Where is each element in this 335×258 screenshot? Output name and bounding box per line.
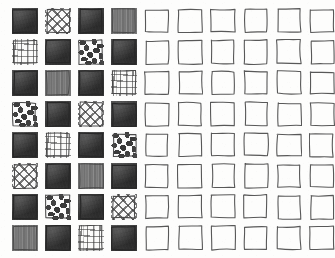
swatch-fill-solid <box>12 8 38 34</box>
swatch-cell-empty-outline[interactable] <box>210 225 236 251</box>
swatch-cell-empty-outline[interactable] <box>210 39 236 65</box>
swatch-cell-empty-outline[interactable] <box>144 101 170 127</box>
swatch-cell-plaid-grid-hatch[interactable] <box>45 132 71 158</box>
swatch-cell-dash-brick-strokes[interactable] <box>12 225 38 251</box>
swatch-cell-empty-outline[interactable] <box>276 163 302 189</box>
swatch-cell-empty-outline[interactable] <box>309 101 335 127</box>
swatch-cell-empty-outline[interactable] <box>276 39 302 65</box>
swatch-cell-dash-brick-strokes[interactable] <box>78 163 104 189</box>
swatch-cell-empty-outline[interactable] <box>276 8 302 34</box>
swatch-fill-dashes <box>78 163 104 189</box>
swatch-fill-dashes <box>45 70 71 96</box>
swatch-cell-solid-dark-fill[interactable] <box>111 39 137 65</box>
swatch-fill-solid <box>12 70 38 96</box>
swatch-fill-empty <box>276 39 302 65</box>
swatch-cell-plaid-grid-hatch[interactable] <box>111 70 137 96</box>
swatch-cell-maze-labyrinth[interactable] <box>45 8 71 34</box>
swatch-fill-empty <box>177 194 203 220</box>
swatch-cell-empty-outline[interactable] <box>144 39 170 65</box>
swatch-cell-empty-outline[interactable] <box>309 194 335 220</box>
swatch-cell-empty-outline[interactable] <box>276 101 302 127</box>
swatch-cell-empty-outline[interactable] <box>177 101 203 127</box>
swatch-cell-empty-outline[interactable] <box>177 194 203 220</box>
swatch-cell-dash-brick-strokes[interactable] <box>45 70 71 96</box>
swatch-cell-maze-labyrinth[interactable] <box>111 194 137 220</box>
swatch-fill-empty <box>210 163 236 189</box>
swatch-cell-solid-dark-fill[interactable] <box>78 194 104 220</box>
swatch-cell-empty-outline[interactable] <box>309 132 335 158</box>
swatch-cell-empty-outline[interactable] <box>210 8 236 34</box>
swatch-cell-irregular-blobs[interactable] <box>111 132 137 158</box>
swatch-cell-empty-outline[interactable] <box>243 8 269 34</box>
swatch-fill-empty <box>210 225 236 251</box>
swatch-cell-solid-dark-fill[interactable] <box>111 101 137 127</box>
swatch-cell-empty-outline[interactable] <box>243 101 269 127</box>
swatch-cell-solid-dark-fill[interactable] <box>45 163 71 189</box>
swatch-cell-solid-dark-fill[interactable] <box>78 70 104 96</box>
swatch-cell-empty-outline[interactable] <box>210 132 236 158</box>
swatch-cell-empty-outline[interactable] <box>309 39 335 65</box>
swatch-cell-empty-outline[interactable] <box>243 39 269 65</box>
swatch-cell-empty-outline[interactable] <box>276 225 302 251</box>
swatch-cell-irregular-blobs[interactable] <box>12 101 38 127</box>
swatch-cell-dash-brick-strokes[interactable] <box>111 8 137 34</box>
swatch-cell-empty-outline[interactable] <box>177 163 203 189</box>
swatch-cell-irregular-blobs[interactable] <box>45 194 71 220</box>
swatch-fill-empty <box>210 194 236 220</box>
swatch-cell-solid-dark-fill[interactable] <box>12 8 38 34</box>
swatch-cell-empty-outline[interactable] <box>309 225 335 251</box>
swatch-fill-empty <box>243 163 269 189</box>
swatch-cell-empty-outline[interactable] <box>177 70 203 96</box>
swatch-cell-empty-outline[interactable] <box>177 8 203 34</box>
swatch-cell-solid-dark-fill[interactable] <box>111 163 137 189</box>
swatch-cell-empty-outline[interactable] <box>243 132 269 158</box>
swatch-cell-plaid-grid-hatch[interactable] <box>12 39 38 65</box>
swatch-cell-solid-dark-fill[interactable] <box>111 225 137 251</box>
swatch-cell-solid-dark-fill[interactable] <box>78 8 104 34</box>
swatch-cell-empty-outline[interactable] <box>144 70 170 96</box>
swatch-cell-empty-outline[interactable] <box>210 101 236 127</box>
swatch-cell-solid-dark-fill[interactable] <box>45 39 71 65</box>
swatch-cell-empty-outline[interactable] <box>144 225 170 251</box>
swatch-fill-empty <box>243 39 269 65</box>
swatch-cell-empty-outline[interactable] <box>177 132 203 158</box>
swatch-cell-empty-outline[interactable] <box>243 194 269 220</box>
swatch-fill-plaid <box>111 70 137 96</box>
swatch-cell-irregular-blobs[interactable] <box>78 39 104 65</box>
swatch-cell-empty-outline[interactable] <box>243 163 269 189</box>
swatch-cell-empty-outline[interactable] <box>309 70 335 96</box>
swatch-fill-maze <box>111 194 137 220</box>
swatch-cell-empty-outline[interactable] <box>309 163 335 189</box>
swatch-cell-maze-labyrinth[interactable] <box>12 163 38 189</box>
swatch-cell-empty-outline[interactable] <box>309 8 335 34</box>
swatch-cell-empty-outline[interactable] <box>210 163 236 189</box>
swatch-fill-solid <box>12 194 38 220</box>
swatch-cell-empty-outline[interactable] <box>144 194 170 220</box>
swatch-cell-empty-outline[interactable] <box>177 39 203 65</box>
swatch-cell-empty-outline[interactable] <box>276 132 302 158</box>
swatch-cell-solid-dark-fill[interactable] <box>78 132 104 158</box>
swatch-cell-empty-outline[interactable] <box>210 70 236 96</box>
swatch-fill-empty <box>309 225 335 251</box>
swatch-cell-solid-dark-fill[interactable] <box>45 101 71 127</box>
swatch-fill-blobs <box>12 101 38 127</box>
swatch-cell-solid-dark-fill[interactable] <box>12 132 38 158</box>
swatch-fill-empty <box>309 39 335 65</box>
swatch-cell-empty-outline[interactable] <box>144 132 170 158</box>
swatch-fill-empty <box>309 132 335 158</box>
swatch-fill-solid <box>78 132 104 158</box>
swatch-cell-solid-dark-fill[interactable] <box>12 70 38 96</box>
swatch-cell-plaid-grid-hatch[interactable] <box>78 225 104 251</box>
swatch-cell-solid-dark-fill[interactable] <box>45 225 71 251</box>
swatch-cell-empty-outline[interactable] <box>144 163 170 189</box>
swatch-cell-empty-outline[interactable] <box>144 8 170 34</box>
swatch-cell-empty-outline[interactable] <box>243 225 269 251</box>
swatch-cell-maze-labyrinth[interactable] <box>78 101 104 127</box>
swatch-cell-empty-outline[interactable] <box>276 194 302 220</box>
swatch-cell-empty-outline[interactable] <box>276 70 302 96</box>
swatch-cell-empty-outline[interactable] <box>243 70 269 96</box>
swatch-cell-empty-outline[interactable] <box>177 225 203 251</box>
swatch-cell-empty-outline[interactable] <box>210 194 236 220</box>
swatch-cell-solid-dark-fill[interactable] <box>12 194 38 220</box>
swatch-fill-empty <box>144 194 170 220</box>
